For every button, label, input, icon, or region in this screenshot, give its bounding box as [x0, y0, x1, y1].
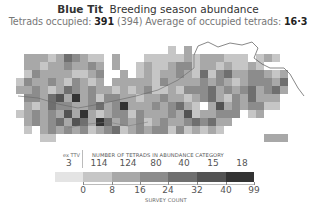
map-legend: ex TTV 3 NUMBER OF TETRADS IN ABUNDANCE …: [0, 148, 316, 206]
species-name: Blue Tit: [57, 3, 103, 15]
average-value: 16·3: [284, 16, 307, 27]
category-count-0-8: 114: [87, 158, 111, 168]
legend-swatch-0-8: [83, 172, 112, 182]
category-count-8-16: 124: [116, 158, 140, 168]
axis-tick-label: 16: [130, 185, 150, 195]
tetrads-total: (394): [117, 16, 142, 27]
axis-tick-label: 99: [244, 185, 264, 195]
ex-ttv-count: 3: [66, 158, 72, 168]
axis-tick-label: 8: [102, 185, 122, 195]
axis-tick-label: 40: [216, 185, 236, 195]
legend-swatch-24-32: [168, 172, 197, 182]
category-count-24-32: 40: [172, 158, 196, 168]
legend-swatch-40-99: [226, 172, 254, 182]
tetrads-label: Tetrads occupied:: [9, 16, 92, 27]
tetrads-occupied: 391: [94, 16, 114, 27]
axis-title: SURVEY COUNT: [145, 197, 187, 203]
axis-tick-label: 24: [158, 185, 178, 195]
average-label: Average of occupied tetrads:: [145, 16, 281, 27]
abundance-map: [8, 38, 312, 150]
legend-divider: [82, 150, 83, 168]
legend-swatch-32-40: [197, 172, 226, 182]
category-count-32-40: 15: [201, 158, 225, 168]
river-boundary-lines: [8, 38, 312, 150]
map-subtitle: Tetrads occupied: 391 (394) Average of o…: [0, 15, 316, 28]
axis-tick-label: 0: [73, 185, 93, 195]
axis-tick-label: 32: [187, 185, 207, 195]
legend-swatch-ex-ttv: [55, 172, 83, 182]
legend-swatch-16-24: [140, 172, 168, 182]
map-type: Breeding season abundance: [110, 3, 259, 15]
legend-swatch-8-16: [112, 172, 140, 182]
category-count-16-24: 80: [144, 158, 168, 168]
category-count-40-99: 18: [230, 158, 254, 168]
